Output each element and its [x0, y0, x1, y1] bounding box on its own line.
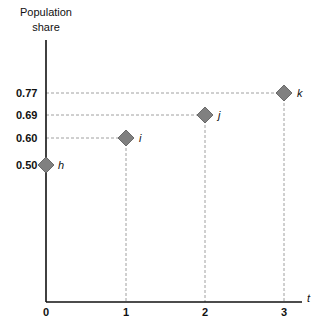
- point-k-diamond-icon: [276, 85, 292, 101]
- x-axis-title: t: [307, 292, 311, 304]
- guide-lines: [46, 93, 284, 302]
- point-label-k: k: [297, 87, 303, 99]
- point-i-diamond-icon: [118, 130, 134, 146]
- point-label-i: i: [139, 132, 142, 144]
- x-tick-3: 3: [281, 306, 287, 318]
- y-tick-050: 0.50: [16, 159, 37, 171]
- point-j-diamond-icon: [197, 107, 213, 123]
- x-tick-1: 1: [123, 306, 129, 318]
- y-axis-title-line2: share: [32, 21, 60, 33]
- x-tick-0: 0: [43, 306, 49, 318]
- y-axis-title-line1: Population: [20, 6, 72, 18]
- x-tick-2: 2: [202, 306, 208, 318]
- point-h-diamond-icon: [38, 157, 54, 173]
- point-label-j: j: [216, 109, 221, 121]
- y-tick-077: 0.77: [16, 87, 37, 99]
- y-tick-069: 0.69: [16, 109, 37, 121]
- chart: Population share t 0.77 0.69 0.60 0.50 0…: [0, 0, 326, 332]
- y-tick-060: 0.60: [16, 132, 37, 144]
- point-label-h: h: [58, 159, 64, 171]
